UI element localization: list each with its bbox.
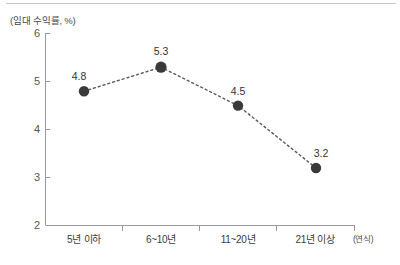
x-axis-unit-label: (연식) — [353, 232, 373, 244]
x-tick-label-4: 21년 이상 — [277, 231, 353, 246]
data-point-label-4: 3.2 — [306, 147, 336, 159]
data-point-marker-2 — [155, 62, 166, 73]
data-point-label-2: 5.3 — [146, 45, 176, 57]
plot-area — [0, 0, 400, 265]
series-line-rental-yield — [84, 67, 316, 168]
chart-figure: (임대 수익률, %) 6 5 4 3 2 4.8 5.3 4.5 3.2 5년… — [0, 0, 400, 265]
data-point-label-1: 4.8 — [64, 70, 94, 82]
data-point-marker-4 — [311, 163, 321, 173]
x-tick-label-2: 6~10년 — [123, 231, 199, 246]
data-point-marker-3 — [233, 100, 243, 110]
x-tick-label-3: 11~20년 — [200, 231, 276, 246]
x-tick-label-1: 5년 이하 — [46, 231, 122, 246]
data-point-marker-1 — [79, 86, 89, 96]
data-point-label-3: 4.5 — [223, 85, 253, 97]
